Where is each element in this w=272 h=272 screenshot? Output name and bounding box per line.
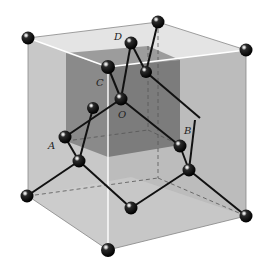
label-C: C	[96, 77, 104, 88]
atom-C	[101, 60, 115, 74]
atom-left-inner	[87, 102, 99, 114]
atom-below-B	[183, 164, 196, 177]
label-D: D	[113, 31, 122, 42]
atom-B	[174, 140, 187, 153]
atom-corner-bottom-right	[240, 210, 253, 223]
atom-corner-top-back	[152, 16, 165, 29]
atom-A	[59, 131, 72, 144]
atom-D	[125, 37, 138, 50]
lattice-svg: D C O A B	[0, 0, 272, 272]
atom-corner-bottom-left	[21, 190, 34, 203]
label-B: B	[183, 125, 191, 136]
atom-corner-top-right	[240, 44, 253, 57]
atom-corner-bottom-front	[101, 243, 115, 257]
atom-O	[115, 93, 128, 106]
atom-corner-top-left	[22, 32, 35, 45]
label-O: O	[118, 109, 126, 120]
atom-below-A	[73, 155, 86, 168]
diamond-lattice-diagram: D C O A B	[0, 0, 272, 272]
atom-bottom-center	[125, 202, 138, 215]
atom-face-top	[140, 66, 152, 78]
label-A: A	[47, 140, 55, 151]
